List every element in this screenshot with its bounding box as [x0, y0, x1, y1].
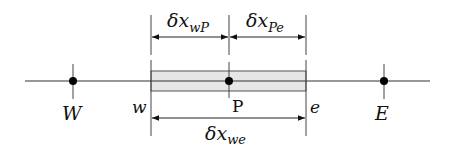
node-e-dot — [380, 77, 388, 85]
label-node-p: P — [232, 96, 243, 116]
label-dx-wP: δxwP — [167, 9, 209, 35]
label-dx-we: δxwe — [205, 122, 246, 147]
label-face-e: e — [310, 97, 320, 117]
label-node-e: E — [374, 102, 389, 124]
label-dx-Pe: δxPe — [246, 9, 284, 35]
finite-volume-diagram: δxwP δxPe δxwe W P E w e — [0, 0, 456, 150]
label-node-w: W — [62, 102, 83, 124]
node-w-dot — [69, 77, 77, 85]
node-p-dot — [225, 77, 233, 85]
label-face-w: w — [132, 97, 147, 117]
